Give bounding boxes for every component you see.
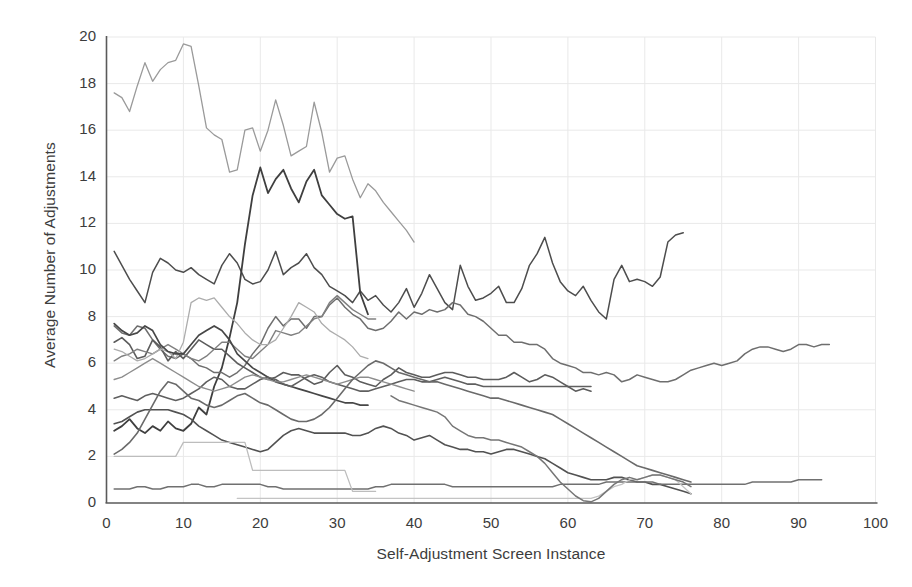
series-line <box>114 361 691 482</box>
x-tick-label: 50 <box>470 514 512 531</box>
y-tick-label: 6 <box>62 353 96 370</box>
x-tick-label: 70 <box>624 514 666 531</box>
y-tick-label: 14 <box>62 167 96 184</box>
y-axis-title: Average Number of Adjustments <box>41 20 59 490</box>
series-line <box>114 338 591 392</box>
x-tick-label: 40 <box>393 514 435 531</box>
series-line <box>114 296 375 361</box>
x-tick-label: 60 <box>547 514 589 531</box>
line-chart-plot <box>0 0 912 587</box>
x-tick-label: 20 <box>239 514 281 531</box>
y-tick-label: 2 <box>62 446 96 463</box>
chart-container: 02468101214161820 0102030405060708090100… <box>0 0 912 587</box>
y-tick-label: 0 <box>62 493 96 510</box>
y-tick-label: 20 <box>62 27 96 44</box>
y-tick-label: 10 <box>62 260 96 277</box>
x-axis-title: Self-Adjustment Screen Instance <box>106 545 876 563</box>
x-tick-label: 80 <box>701 514 743 531</box>
y-tick-label: 16 <box>62 120 96 137</box>
series-line <box>114 44 414 242</box>
x-tick-label: 100 <box>855 514 897 531</box>
x-tick-label: 90 <box>778 514 820 531</box>
series-line <box>114 480 821 489</box>
x-tick-label: 0 <box>86 514 128 531</box>
gridlines <box>107 37 876 503</box>
x-tick-label: 30 <box>316 514 358 531</box>
y-tick-label: 18 <box>62 74 96 91</box>
series-line <box>114 410 691 494</box>
x-tick-label: 10 <box>162 514 204 531</box>
y-tick-label: 4 <box>62 400 96 417</box>
y-tick-label: 12 <box>62 213 96 230</box>
y-tick-label: 8 <box>62 307 96 324</box>
series-line <box>114 233 683 319</box>
